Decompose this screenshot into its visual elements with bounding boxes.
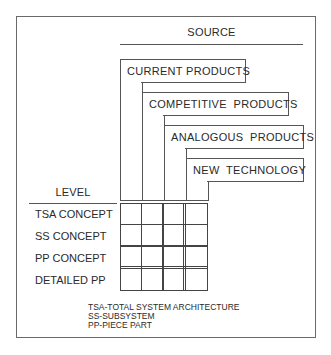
source-underline — [120, 44, 303, 45]
matrix-cell — [183, 266, 208, 291]
matrix-cell — [120, 224, 142, 247]
level-underline — [29, 203, 117, 204]
mask — [143, 115, 163, 116]
level-label-tsa-concept: TSA CONCEPT — [35, 208, 113, 220]
matrix-cell — [183, 203, 208, 225]
mask — [187, 181, 207, 182]
connector-baseline — [120, 200, 209, 201]
matrix-cell — [120, 203, 142, 225]
matrix-cell — [141, 266, 164, 291]
level-label-pp-concept: PP CONCEPT — [35, 252, 106, 264]
source-label: CURRENT PRODUCTS — [127, 65, 250, 77]
legend-pp: PP-PIECE PART — [88, 321, 239, 330]
matrix-cell — [141, 224, 164, 247]
source-box-competitive-products: COMPETITIVE PRODUCTS — [142, 92, 289, 116]
level-heading: LEVEL — [29, 186, 117, 198]
source-label: COMPETITIVE PRODUCTS — [149, 98, 298, 110]
matrix-cell — [183, 224, 208, 247]
source-label: NEW TECHNOLOGY — [193, 164, 306, 176]
level-label-detailed-pp: DETAILED PP — [35, 274, 106, 286]
source-box-current-products: CURRENT PRODUCTS — [120, 59, 246, 83]
source-box-analogous-products: ANALOGOUS PRODUCTS — [164, 125, 304, 149]
source-label: ANALOGOUS PRODUCTS — [171, 131, 314, 143]
source-heading: SOURCE — [120, 26, 303, 38]
connector-right-edge — [208, 181, 209, 200]
source-box-new-technology: NEW TECHNOLOGY — [186, 158, 304, 182]
mask — [165, 148, 185, 149]
legend: TSA-TOTAL SYSTEM ARCHITECTURE SS-SUBSYST… — [88, 303, 239, 330]
matrix-cell — [120, 266, 142, 291]
mask — [121, 82, 141, 83]
level-label-ss-concept: SS CONCEPT — [35, 230, 107, 242]
level-source-matrix — [120, 203, 209, 292]
matrix-cell — [141, 203, 164, 225]
